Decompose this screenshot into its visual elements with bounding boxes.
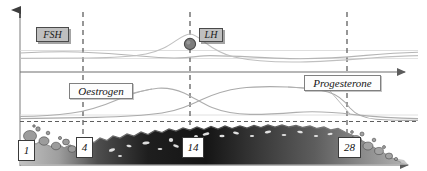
day-marker-1: 1 — [18, 140, 35, 161]
oestrogen-leader-line — [133, 89, 152, 93]
label-oestrogen: Oestrogen — [69, 83, 133, 99]
lh-peak-marker — [184, 38, 195, 49]
progesterone-leader-line — [288, 87, 304, 88]
menstrual-cycle-diagram: FSH LH Oestrogen Progesterone 1 4 14 28 — [0, 0, 427, 171]
label-fsh: FSH — [36, 27, 69, 42]
day-marker-14: 14 — [182, 137, 204, 158]
label-lh: LH — [199, 28, 223, 42]
day-marker-28: 28 — [338, 137, 361, 158]
label-progesterone: Progesterone — [304, 75, 381, 91]
day-marker-4: 4 — [76, 137, 93, 158]
